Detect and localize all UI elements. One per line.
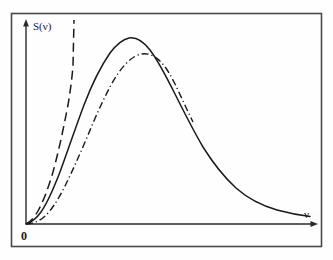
plot-background <box>0 0 333 260</box>
y-axis-label: S(ν) <box>33 20 52 33</box>
figure-container: S(ν) ν 0 <box>0 0 333 260</box>
origin-label: 0 <box>21 229 27 243</box>
spectral-density-plot: S(ν) ν 0 <box>0 0 333 260</box>
x-axis-label: ν <box>304 208 309 220</box>
